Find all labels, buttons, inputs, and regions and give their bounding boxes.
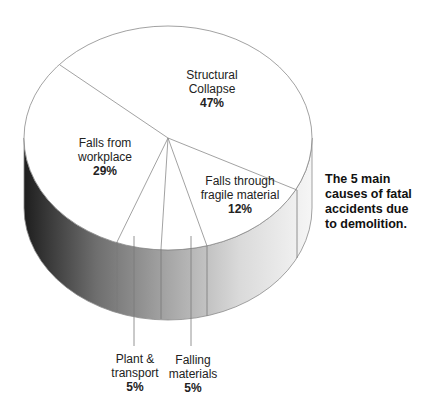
label-text: workplace [78,150,132,164]
label-text: fragile material [201,188,280,202]
chart-caption: The 5 main causes of fatal accidents due… [325,172,423,232]
label-text: Collapse [189,82,236,96]
label-value: 5% [158,381,228,395]
label-falls-through-fragile: Falls through fragile material 12% [190,174,290,216]
label-structural-collapse: Structural Collapse 47% [172,68,252,110]
label-falling-materials: Falling materials 5% [158,353,228,395]
label-text: Falls from [79,136,132,150]
label-text: Structural [186,68,237,82]
label-text: Falls through [205,174,274,188]
label-falls-from-workplace: Falls from workplace 29% [65,136,145,178]
label-value: 29% [65,164,145,178]
label-text: materials [169,367,218,381]
label-text: Falling [175,353,210,367]
label-text: transport [111,366,158,380]
label-value: 47% [172,96,252,110]
label-text: Plant & [116,352,155,366]
label-value: 12% [190,202,290,216]
